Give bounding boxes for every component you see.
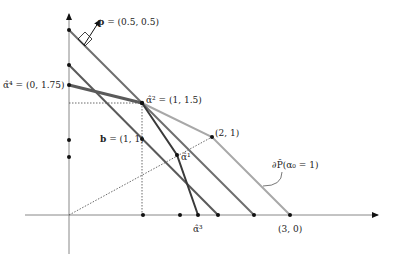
label-point30: (3, 0): [278, 224, 302, 234]
alpha4-alpha2-line: [69, 85, 142, 103]
diagram-canvas: p = (0.5, 0.5) α̂⁴ = (0, 1.75) α̂² = (1,…: [0, 0, 394, 264]
label-alpha2: α̂² = (1, 1.5): [146, 95, 202, 105]
label-b: b = (1, 1): [100, 134, 144, 144]
normal-vector-p: [78, 20, 100, 46]
label-point21: (2, 1): [215, 128, 239, 138]
label-alpha1: α̂¹: [181, 152, 191, 162]
boundary-line: [142, 103, 290, 215]
label-p: p = (0.5, 0.5): [98, 17, 159, 27]
boundary-pointer: [263, 172, 282, 186]
points: [67, 28, 292, 217]
label-boundary: ∂P̂(α₀ = 1): [272, 159, 318, 170]
label-alpha3: α̂³: [193, 224, 203, 234]
label-alpha4: α̂⁴ = (0, 1.75): [3, 80, 64, 90]
top-line: [69, 30, 254, 215]
